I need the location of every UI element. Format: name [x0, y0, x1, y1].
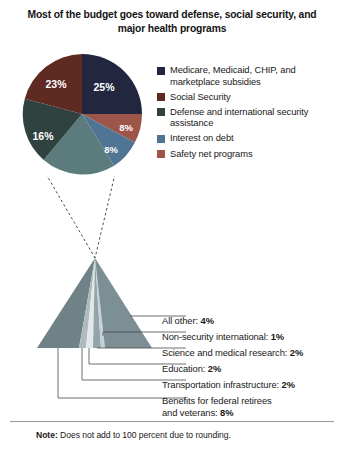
connector-line-left [46, 176, 95, 258]
callout-transportation-infrastructure: Transportation infrastructure: 2% [162, 379, 295, 391]
callout-label: Education: [162, 363, 205, 374]
footer-divider [10, 421, 334, 422]
callout-education: Education: 2% [162, 363, 221, 375]
legend-swatch-icon [157, 135, 165, 143]
pie-label-social-security: 23% [45, 78, 67, 90]
footnote-label: Note: [36, 430, 58, 440]
legend-swatch-icon [157, 67, 165, 75]
callout-label: All other: [162, 315, 198, 326]
callout-value: 2% [290, 347, 303, 358]
callout-label: Benefits for federal retirees and vetera… [162, 395, 272, 418]
callout-value: 4% [201, 315, 214, 326]
callout-value: 2% [282, 379, 295, 390]
callout-label: Transportation infrastructure: [162, 379, 279, 390]
callout-value: 2% [208, 363, 221, 374]
legend-label: Safety net programs [170, 148, 253, 160]
pie-chart-svg: 25% 23% 16% 8% 8% [18, 50, 146, 178]
callout-non-security-international: Non-security international: 1% [162, 331, 284, 343]
callout-all-other: All other: 4% [162, 315, 214, 327]
connector-line-right [95, 176, 115, 258]
legend-label: Interest on debt [170, 132, 234, 144]
legend-item-defense: Defense and international security assis… [157, 106, 343, 129]
footnote: Note: Does not add to 100 percent due to… [36, 430, 231, 441]
legend-label: Social Security [170, 91, 231, 103]
legend-item-medicare: Medicare, Medicaid, CHIP, and marketplac… [157, 64, 343, 87]
footnote-text: Does not add to 100 percent due to round… [58, 430, 231, 440]
pie-label-safety-net: 8% [119, 122, 133, 133]
pie-label-medicare: 25% [93, 81, 115, 93]
legend-swatch-icon [157, 93, 165, 101]
chart-title: Most of the budget goes toward defense, … [14, 8, 330, 35]
fan-slice-all-other [95, 258, 152, 348]
legend-label: Medicare, Medicaid, CHIP, and marketplac… [170, 64, 343, 87]
chart-page: Most of the budget goes toward defense, … [0, 0, 344, 449]
legend-swatch-icon [157, 150, 165, 158]
pie-chart: 25% 23% 16% 8% 8% [18, 50, 146, 178]
callout-science-medical-research: Science and medical research: 2% [162, 347, 303, 359]
callout-value: 8% [220, 407, 233, 418]
callout-label: Science and medical research: [162, 347, 287, 358]
callout-benefits-federal-retirees: Benefits for federal retirees and vetera… [162, 395, 282, 418]
legend: Medicare, Medicaid, CHIP, and marketplac… [157, 64, 343, 163]
legend-label: Defense and international security assis… [170, 106, 343, 129]
callout-label: Non-security international: [162, 331, 268, 342]
legend-swatch-icon [157, 108, 165, 116]
legend-item-interest-on-debt: Interest on debt [157, 132, 343, 144]
legend-item-safety-net: Safety net programs [157, 148, 343, 160]
pie-label-interest-on-debt: 8% [104, 144, 118, 155]
callout-value: 1% [271, 331, 284, 342]
legend-item-social-security: Social Security [157, 91, 343, 103]
pie-label-defense: 16% [32, 130, 54, 142]
